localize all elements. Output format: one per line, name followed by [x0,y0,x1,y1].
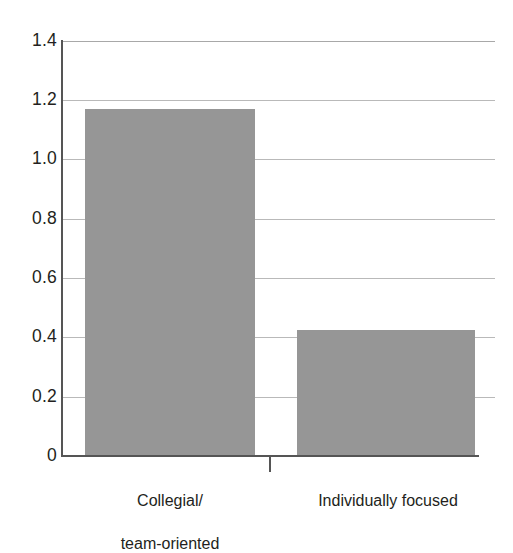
y-tick-label-1-0: 1.0 [5,148,57,169]
y-tick-label-1-4: 1.4 [5,30,57,51]
gridline-1-2 [62,100,495,101]
y-tick-label-0-2: 0.2 [5,386,57,407]
category-label-line-1: Collegial/ [80,490,260,512]
category-label-line-2: team-oriented [80,533,260,553]
y-axis-line [61,40,63,457]
category-separator-tick [269,457,271,472]
gridline-1-4 [62,41,495,42]
category-label-collegial-team-oriented: Collegial/ team-oriented [80,468,260,553]
y-tick-label-1-2: 1.2 [5,89,57,110]
y-tick-label-0: 0 [5,445,57,466]
y-tick-label-0-4: 0.4 [5,326,57,347]
y-tick-label-0-8: 0.8 [5,208,57,229]
bar-collegial-team-oriented [85,109,255,456]
bar-individually-focused [297,330,475,456]
category-label-line-1: Individually focused [296,490,480,512]
y-tick-label-0-6: 0.6 [5,267,57,288]
y-axis-tick-labels: 1.4 1.2 1.0 0.8 0.6 0.4 0.2 0 [0,0,57,538]
category-label-individually-focused: Individually focused [296,468,480,533]
